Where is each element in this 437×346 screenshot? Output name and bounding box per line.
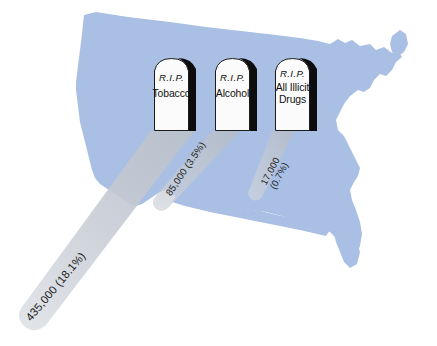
tombstone-drugs-text: R.I.P. All Illicit Drugs <box>269 57 316 131</box>
tombstone-name-label: All Illicit Drugs <box>269 82 316 107</box>
shadow-group <box>0 0 437 346</box>
rip-label: R.I.P. <box>159 72 184 83</box>
tombstone-tobacco-text: R.I.P. Tobacco <box>148 57 195 131</box>
infographic-canvas: 435,000 (18.1%) 85,000 (3.5%) 17,000 (0.… <box>0 0 437 346</box>
tombstone-alcohol-text: R.I.P. Alcohol <box>209 57 256 131</box>
rip-label: R.I.P. <box>280 68 305 79</box>
tombstone-name-label: Tobacco <box>152 88 190 100</box>
rip-label: R.I.P. <box>220 72 245 83</box>
tombstone-name-label: Alcohol <box>216 88 249 100</box>
